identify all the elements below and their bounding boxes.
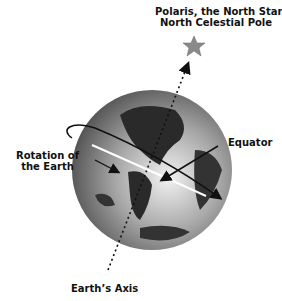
- equator-label: Equator: [228, 137, 272, 148]
- polaris-label: Polaris, the North Star North Celestial …: [155, 6, 277, 28]
- axis-label: Earth’s Axis: [71, 283, 138, 294]
- globe: [72, 90, 232, 250]
- rotation-label: Rotation of the Earth: [16, 150, 79, 172]
- polaris-star-icon: [183, 36, 205, 56]
